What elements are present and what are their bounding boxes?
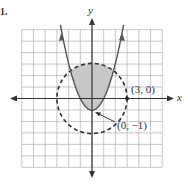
- graph: [0, 0, 188, 188]
- problem-number: 1.: [0, 6, 8, 17]
- point-3-0: [125, 97, 129, 101]
- y-axis-up-arrow-icon: [89, 18, 95, 25]
- x-axis-right-arrow-icon: [167, 96, 174, 102]
- x-axis-left-arrow-icon: [10, 96, 17, 102]
- point-label-vertex: (0, −1): [117, 119, 147, 131]
- vertex-pointer-arrow-icon: [95, 112, 101, 117]
- parabola-right-arrow-icon: [119, 33, 125, 41]
- point-label-3-0: (3, 0): [131, 83, 155, 95]
- y-axis-down-arrow-icon: [89, 171, 95, 178]
- x-axis-label: x: [177, 91, 182, 103]
- y-axis-label: y: [88, 4, 93, 16]
